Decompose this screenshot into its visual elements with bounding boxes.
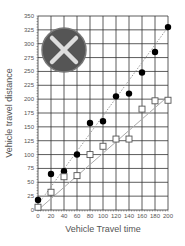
data-point-square	[48, 189, 54, 195]
x-tick-label: 100	[98, 213, 109, 219]
data-point-square	[61, 174, 67, 180]
data-point-circle	[100, 118, 106, 124]
data-point-square	[152, 98, 158, 104]
data-point-circle	[35, 197, 41, 203]
y-tick-label: 150	[24, 124, 35, 130]
y-tick-label: 250	[24, 68, 35, 74]
x-tick-label: 80	[87, 213, 94, 219]
y-tick-label: 325	[24, 27, 35, 33]
x-tick-label: 120	[111, 213, 122, 219]
data-point-square	[100, 143, 106, 149]
y-tick-label: 275	[24, 55, 35, 61]
y-tick-label: 300	[24, 41, 35, 47]
data-point-circle	[48, 171, 54, 177]
scatter-chart: 0204060801001201401601802000255075100125…	[0, 0, 185, 246]
data-point-circle	[165, 24, 171, 30]
y-tick-label: 225	[24, 82, 35, 88]
x-axis-title: Vehicle Travel time	[65, 224, 141, 234]
y-tick-label: 125	[24, 138, 35, 144]
close-x-icon[interactable]	[42, 28, 86, 72]
data-point-circle	[87, 120, 93, 126]
y-tick-label: 350	[24, 13, 35, 19]
y-tick-label: 0	[31, 207, 35, 213]
y-tick-label: 25	[27, 193, 34, 199]
data-point-square	[139, 106, 145, 112]
y-axis-title: Vehicle travel distance	[4, 68, 14, 158]
x-tick-label: 60	[74, 213, 81, 219]
y-tick-label: 75	[27, 165, 34, 171]
data-point-square	[35, 204, 41, 210]
y-tick-label: 175	[24, 110, 35, 116]
x-tick-label: 0	[36, 213, 40, 219]
x-tick-label: 40	[61, 213, 68, 219]
y-tick-label: 100	[24, 152, 35, 158]
x-tick-label: 200	[163, 213, 174, 219]
data-point-circle	[126, 90, 132, 96]
data-point-square	[165, 97, 171, 103]
data-point-circle	[139, 69, 145, 75]
x-tick-label: 160	[137, 213, 148, 219]
data-point-circle	[113, 93, 119, 99]
data-point-circle	[152, 49, 158, 55]
data-point-square	[87, 152, 93, 158]
y-tick-label: 50	[27, 179, 34, 185]
data-point-circle	[74, 151, 80, 157]
y-tick-label: 200	[24, 96, 35, 102]
x-tick-label: 140	[124, 213, 135, 219]
data-point-square	[74, 173, 80, 179]
x-tick-label: 180	[150, 213, 161, 219]
x-tick-label: 20	[48, 213, 55, 219]
data-point-square	[113, 136, 119, 142]
data-point-square	[126, 136, 132, 142]
